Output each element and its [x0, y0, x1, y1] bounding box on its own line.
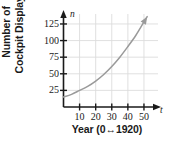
y-axis-arrowhead [60, 10, 66, 18]
y-tick-label: 25 [26, 84, 59, 95]
y-tick-label: 125 [26, 18, 59, 29]
x-tick-label: 50 [133, 111, 155, 122]
y-axis-variable-label: n [70, 9, 75, 19]
y-tick-label: 75 [26, 51, 59, 62]
x-axis-title: Year (0↔1920) [48, 123, 166, 135]
y-tick-label: 100 [26, 35, 59, 46]
x-axis-variable-label: t [160, 105, 163, 115]
y-tick-label: 50 [26, 68, 59, 79]
gridlines [64, 14, 159, 107]
chart-figure: Number of Cockpit Displays n t 255075100… [0, 0, 170, 141]
